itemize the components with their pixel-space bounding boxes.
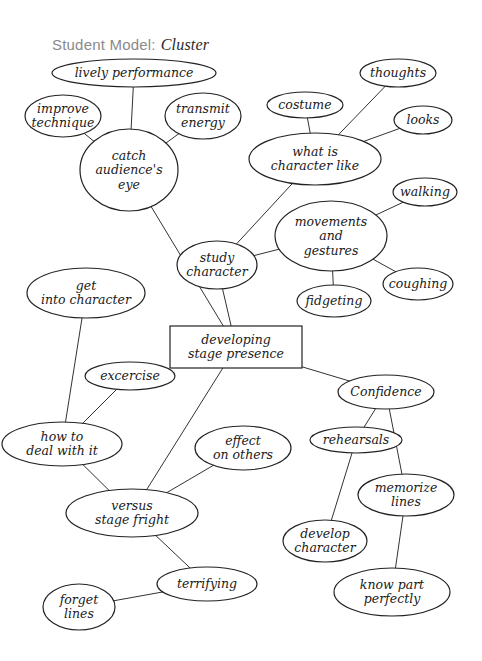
node-label: walking: [400, 184, 450, 199]
node-label: stage presence: [188, 346, 284, 361]
node-label: effect: [225, 433, 262, 448]
node-label: energy: [181, 115, 226, 130]
node-fidgeting: fidgeting: [297, 285, 371, 317]
node-catch: catchaudience'seye: [80, 129, 178, 211]
node-label: thoughts: [370, 65, 426, 80]
node-label: improve: [37, 101, 89, 116]
node-memorize: memorizelines: [358, 474, 454, 516]
node-transmit: transmitenergy: [165, 93, 241, 139]
node-study: studycharacter: [177, 241, 257, 289]
node-label: on others: [213, 447, 273, 462]
node-looks: looks: [394, 106, 452, 134]
node-thoughts: thoughts: [360, 59, 436, 87]
node-label: Confidence: [350, 384, 421, 399]
node-label: versus: [111, 498, 152, 513]
node-improve: improvetechnique: [25, 95, 101, 137]
node-getinto: getinto character: [27, 268, 145, 318]
node-label: looks: [406, 112, 439, 127]
node-label: developing: [201, 332, 270, 347]
node-label: movements: [295, 214, 368, 229]
node-label: into character: [41, 292, 132, 307]
node-label: deal with it: [26, 443, 99, 458]
node-label: excercise: [100, 368, 160, 383]
node-label: how to: [41, 429, 84, 444]
node-label: gestures: [304, 243, 359, 258]
node-whatis: what ischaracter like: [249, 133, 381, 185]
node-label: costume: [278, 97, 331, 112]
node-label: fidgeting: [305, 293, 363, 308]
node-label: memorize: [375, 480, 438, 495]
cluster-diagram: lively performanceimprovetechniquetransm…: [0, 0, 482, 661]
node-label: lines: [391, 494, 421, 509]
node-label: perfectly: [364, 591, 421, 606]
node-label: lines: [64, 606, 94, 621]
node-label: get: [76, 278, 97, 293]
node-develop: developcharacter: [283, 520, 367, 562]
node-effect: effecton others: [195, 426, 291, 470]
node-costume: costume: [267, 92, 343, 118]
node-label: transmit: [176, 101, 231, 116]
central-topic: developingstage presence: [170, 326, 302, 368]
node-label: eye: [118, 177, 140, 192]
nodes: lively performanceimprovetechniquetransm…: [2, 59, 457, 630]
node-label: coughing: [389, 276, 448, 291]
node-excercise: excercise: [85, 362, 175, 390]
node-lively: lively performance: [52, 59, 216, 87]
node-label: stage fright: [95, 512, 170, 527]
node-walking: walking: [393, 178, 457, 206]
node-confidence: Confidence: [338, 375, 434, 409]
node-label: and: [319, 228, 343, 243]
node-label: rehearsals: [323, 432, 390, 447]
node-label: character like: [271, 158, 359, 173]
node-label: terrifying: [177, 576, 237, 591]
node-knowpart: know partperfectly: [334, 568, 450, 616]
node-howto: how todeal with it: [2, 422, 122, 466]
node-label: character: [294, 540, 356, 555]
node-rehearsals: rehearsals: [310, 427, 402, 453]
node-label: know part: [360, 577, 425, 592]
node-label: develop: [300, 526, 349, 541]
node-label: catch: [112, 148, 147, 163]
node-label: study: [200, 250, 235, 265]
node-label: lively performance: [75, 65, 194, 80]
node-terrifying: terrifying: [157, 567, 257, 601]
node-versus: versusstage fright: [66, 489, 198, 537]
node-label: forget: [59, 592, 100, 607]
node-movements: movementsandgestures: [275, 201, 387, 271]
node-coughing: coughing: [383, 268, 453, 300]
node-label: what is: [292, 144, 338, 159]
node-label: character: [186, 264, 248, 279]
node-label: audience's: [95, 162, 162, 177]
node-forget: forgetlines: [43, 584, 115, 630]
node-label: technique: [32, 115, 95, 130]
